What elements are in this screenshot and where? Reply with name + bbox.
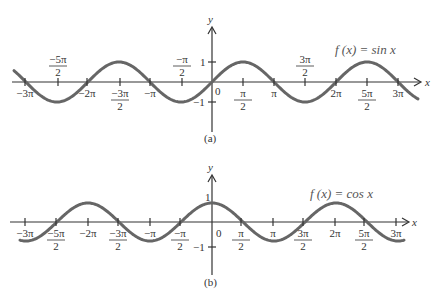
x-tick-denominator: 2 [177,240,183,252]
trig-figure: −3π−2π−3π2−ππ2π2π5π23π−5π2−π23π2 x y 1 0… [0,0,442,299]
x-tick-denominator: 2 [361,240,367,252]
x-tick-denominator: 2 [300,240,306,252]
x-tick-label: π [240,87,246,99]
x-tick-label: −π [144,227,156,239]
origin-label-a: 0 [215,85,221,97]
x-tick-denominator: 2 [179,66,185,78]
x-tick-label: −3π [16,227,34,239]
origin-label-b: 0 [216,227,222,239]
x-tick-label: 2π [330,87,342,99]
x-axis-label-a: x [424,76,430,88]
x-tick-denominator: 2 [115,240,121,252]
function-label-a: f (x) = sin x [335,42,396,57]
x-tick-label: 3π [297,227,309,239]
x-tick-denominator: 2 [238,240,244,252]
x-tick-denominator: 2 [53,240,59,252]
x-tick-denominator: 2 [240,100,246,112]
x-tick-label: −3π [109,227,127,239]
x-tick-denominator: 2 [55,66,61,78]
y-label-neg1-a: −1 [193,96,205,108]
panel-cos: −3π−5π2−2π−3π2−π−π2π2π3π22π5π23π x y 1 0… [10,161,417,289]
x-tick-label: −3π [111,87,129,99]
x-tick-label: −2π [78,87,96,99]
x-tick-denominator: 2 [302,66,308,78]
y-label-1-b: 1 [205,191,211,203]
x-tick-label: −5π [49,53,67,65]
x-tick-label: −π [176,53,188,65]
x-tick-label: 3π [392,87,404,99]
x-tick-label: π [238,227,244,239]
y-axis-label-a: y [207,13,213,25]
x-tick-label: −5π [47,227,65,239]
x-tick-label: 5π [361,87,373,99]
x-tick-label: −2π [79,227,97,239]
function-label-b: f (x) = cos x [310,186,373,201]
caption-a: (a) [204,132,217,145]
caption-b: (b) [204,276,217,289]
x-tick-label: π [271,87,277,99]
x-tick-label: 5π [358,227,370,239]
x-tick-label: −3π [16,87,34,99]
y-axis-label-b: y [207,161,213,173]
panel-sin: −3π−2π−3π2−ππ2π2π5π23π−5π2−π23π2 x y 1 0… [12,13,430,145]
y-label-1-a: 1 [200,56,206,68]
x-tick-label: 3π [390,227,402,239]
x-tick-denominator: 2 [117,100,123,112]
x-tick-label: −π [174,227,186,239]
x-tick-denominator: 2 [364,100,370,112]
x-tick-label: 3π [299,53,311,65]
x-tick-label: π [270,227,276,239]
y-label-neg1-b: −1 [193,241,205,253]
x-tick-label: −π [144,87,156,99]
x-tick-label: 2π [329,227,341,239]
x-axis-label-b: x [411,216,417,228]
